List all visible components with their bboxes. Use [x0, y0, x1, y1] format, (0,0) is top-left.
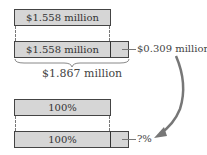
bottom-dash-left: [15, 116, 16, 131]
top-base-bar: $1.558 million: [14, 9, 111, 26]
top-dash-left: [15, 26, 16, 41]
curved-arrow-icon: [150, 54, 190, 144]
top-increase-label: $0.309 million: [137, 43, 207, 54]
bottom-base-bar: 100%: [14, 99, 111, 116]
total-label: $1.867 million: [42, 67, 122, 80]
bottom-unknown-percent-label: ?%: [137, 133, 152, 144]
top-extension-leader: [122, 49, 136, 50]
top-dash-right: [109, 26, 110, 41]
bottom-increased-bar-base: 100%: [14, 131, 111, 148]
bottom-dash-right: [109, 116, 110, 131]
bottom-extension-leader: [122, 139, 136, 140]
top-increased-bar-base: $1.558 million: [14, 41, 111, 58]
